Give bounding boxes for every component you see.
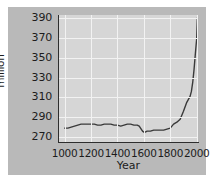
y-tick-label: 270 (8, 131, 52, 142)
x-tick-label: 2000 (180, 148, 213, 159)
y-tick-label: 390 (8, 12, 52, 23)
gridline-vertical (65, 15, 66, 142)
gridline-horizontal (58, 18, 198, 19)
gridline-horizontal (58, 38, 198, 39)
gridline-horizontal (58, 58, 198, 59)
y-tick-label: 350 (8, 52, 52, 63)
gridline-horizontal (58, 117, 198, 118)
plot-area (58, 15, 198, 142)
figure-canvas: Carbon dioxide in the atmosphere: parts … (8, 7, 206, 175)
y-axis-title: Carbon dioxide in the atmosphere: parts … (0, 7, 4, 135)
gridline-vertical (117, 15, 118, 142)
x-axis-title: Year (58, 160, 199, 171)
x-axis-line (58, 142, 199, 143)
y-axis-line (58, 15, 59, 143)
y-tick-label: 330 (8, 72, 52, 83)
gridline-horizontal (58, 78, 198, 79)
gridline-horizontal (58, 137, 198, 138)
gridline-vertical (91, 15, 92, 142)
gridline-vertical (197, 15, 198, 142)
co2-line-series (58, 15, 198, 142)
y-tick-label: 290 (8, 111, 52, 122)
gridline-vertical (170, 15, 171, 142)
y-tick-label: 310 (8, 91, 52, 102)
y-axis-title-line-2: atmosphere: parts per million (0, 7, 7, 135)
y-tick-label: 370 (8, 32, 52, 43)
gridline-horizontal (58, 97, 198, 98)
gridline-vertical (144, 15, 145, 142)
